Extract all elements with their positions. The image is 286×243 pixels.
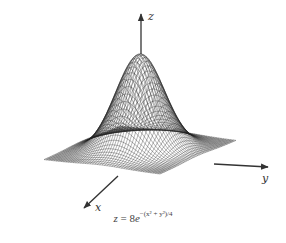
surface-mesh: [44, 54, 236, 174]
y-axis: [214, 164, 268, 167]
surface-equation: z = 8e−(x² + y²)/4: [0, 211, 286, 224]
surface-plot: [0, 0, 286, 243]
equation-exponent: −(x² + y²)/4: [140, 210, 173, 218]
y-axis-label: y: [262, 172, 268, 185]
equation-coefficient: = 8: [118, 212, 135, 224]
z-axis-label: z: [148, 10, 154, 23]
